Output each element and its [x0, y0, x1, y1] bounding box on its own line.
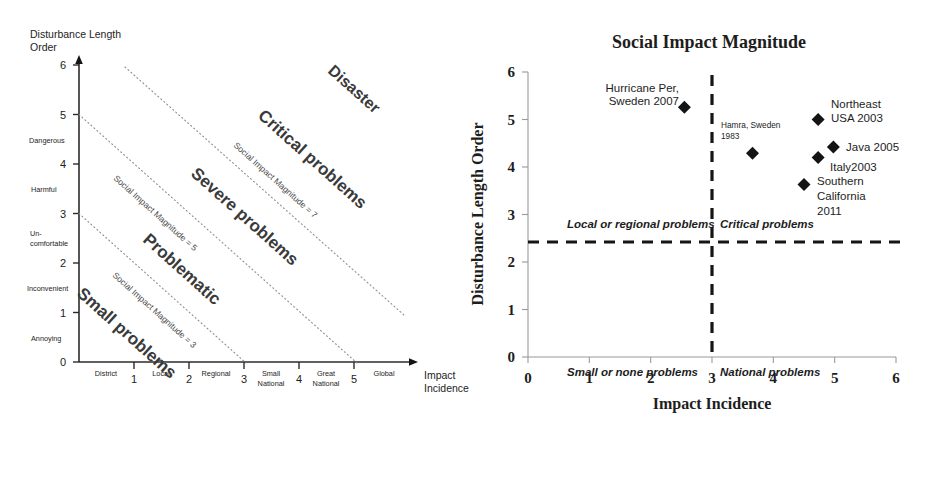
left-chart-x-category-small-national-line1: Small: [262, 369, 281, 378]
right-chart-yaxis-title: Disturbance Length Order: [469, 122, 487, 305]
data-point-marker: [678, 101, 691, 114]
left-chart-x-category-district: District: [95, 369, 117, 378]
data-point-marker: [812, 113, 825, 126]
band-label-critical-problems: Critical problems: [254, 106, 370, 213]
right-chart-x-tick-0: 0: [524, 370, 532, 386]
right-chart-figure: Social Impact Magnitude 0 1 2 3 4 5 6: [455, 0, 927, 489]
left-chart-band-labels: Small problems Problematic Severe proble…: [73, 62, 383, 383]
right-chart-y-tick-0: 0: [508, 349, 516, 365]
left-chart-y-tick-labels: 0 1 2 3 4 5 6: [60, 59, 66, 368]
left-chart-x-category-great-national-line2: National: [313, 379, 340, 388]
data-point-label-hurricane-per-line2: Sweden 2007: [609, 95, 679, 107]
right-chart-x-tick-3: 3: [708, 370, 716, 386]
right-chart-y-tick-3: 3: [508, 207, 516, 223]
left-chart-x-tick-2: 2: [186, 373, 192, 385]
left-chart-xaxis-title-line1: Impact: [424, 369, 456, 381]
left-chart-figure: Disturbance Length Order 0 1 2 3 4 5 6 A…: [0, 0, 470, 489]
quadrant-label-bottom-right: National problems: [720, 366, 820, 378]
data-point-label-italy-2003: Italy2003: [830, 161, 877, 173]
left-chart-y-tick-3: 3: [60, 208, 66, 220]
right-chart-data-points: [678, 101, 840, 191]
quadrant-label-top-left: Local or regional problems: [567, 218, 715, 230]
left-chart-x-category-global: Global: [373, 369, 394, 378]
data-point-label-southern-california-line3: 2011: [817, 205, 842, 217]
left-chart-x-tick-4: 4: [296, 373, 302, 385]
band-label-small-problems: Small problems: [73, 284, 180, 383]
right-chart-y-tick-2: 2: [508, 254, 516, 270]
right-chart-xaxis-title: Impact Incidence: [653, 395, 772, 413]
data-point-marker: [812, 151, 825, 164]
left-chart-x-category-regional: Regional: [202, 369, 231, 378]
data-point-label-hamra-line1: Hamra, Sweden: [721, 120, 781, 130]
band-label-disaster: Disaster: [325, 62, 383, 117]
left-chart-yaxis-title-line1: Disturbance Length: [30, 28, 121, 40]
data-point-label-northeast-usa-line1: Northeast: [831, 98, 882, 110]
right-chart-y-tick-1: 1: [508, 302, 516, 318]
left-chart-y-category-inconvenient: Inconvenient: [27, 284, 68, 293]
left-chart-y-tick-2: 2: [60, 257, 66, 269]
left-chart-y-tick-6: 6: [60, 59, 66, 71]
left-chart-x-tick-1: 1: [131, 373, 137, 385]
left-chart-y-category-uncomfortable-line2: comfortable: [30, 239, 68, 248]
right-chart-y-tick-5: 5: [508, 112, 516, 128]
band-label-severe-problems: Severe problems: [187, 164, 302, 269]
left-chart-x-tick-5: 5: [351, 373, 357, 385]
left-chart-y-category-annoying: Annoying: [31, 334, 61, 343]
right-chart-x-tick-5: 5: [831, 370, 839, 386]
left-chart-y-category-uncomfortable-line1: Un-: [30, 229, 42, 238]
left-chart-y-tick-5: 5: [60, 109, 66, 121]
right-chart-y-tick-4: 4: [508, 159, 516, 175]
right-chart-title: Social Impact Magnitude: [612, 32, 806, 52]
left-chart-y-tick-0: 0: [60, 356, 66, 368]
data-point-label-northeast-usa-line2: USA 2003: [831, 112, 883, 124]
left-chart-y-tick-1: 1: [60, 307, 66, 319]
right-chart-x-tick-6: 6: [892, 370, 900, 386]
right-chart-y-tick-labels: 0 1 2 3 4 5 6: [508, 64, 516, 365]
left-chart-y-category-harmful: Harmful: [31, 185, 57, 194]
left-chart-y-category-dangerous: Dangerous: [29, 136, 65, 145]
data-point-label-hurricane-per-line1: Hurricane Per,: [605, 82, 679, 94]
data-point-marker: [746, 147, 759, 160]
data-point-label-java-2005: Java 2005: [846, 141, 899, 153]
data-point-label-southern-california-line2: California: [817, 190, 866, 202]
left-chart-x-tick-3: 3: [241, 373, 247, 385]
right-chart-y-tick-6: 6: [508, 64, 516, 80]
threshold-line-sim3: [79, 214, 246, 364]
left-chart-x-category-small-national-line2: National: [258, 379, 285, 388]
quadrant-label-bottom-left: Small or none problems: [567, 366, 698, 378]
left-chart-yaxis-title-line2: Order: [30, 41, 57, 53]
left-chart-x-category-great-national-line1: Great: [317, 369, 335, 378]
data-point-marker: [827, 141, 840, 154]
data-point-label-hamra-line2: 1983: [721, 131, 740, 141]
left-chart-y-tick-4: 4: [60, 158, 66, 170]
quadrant-label-top-right: Critical problems: [720, 218, 814, 230]
data-point-label-southern-california-line1: Southern: [817, 175, 864, 187]
data-point-marker: [798, 178, 811, 191]
